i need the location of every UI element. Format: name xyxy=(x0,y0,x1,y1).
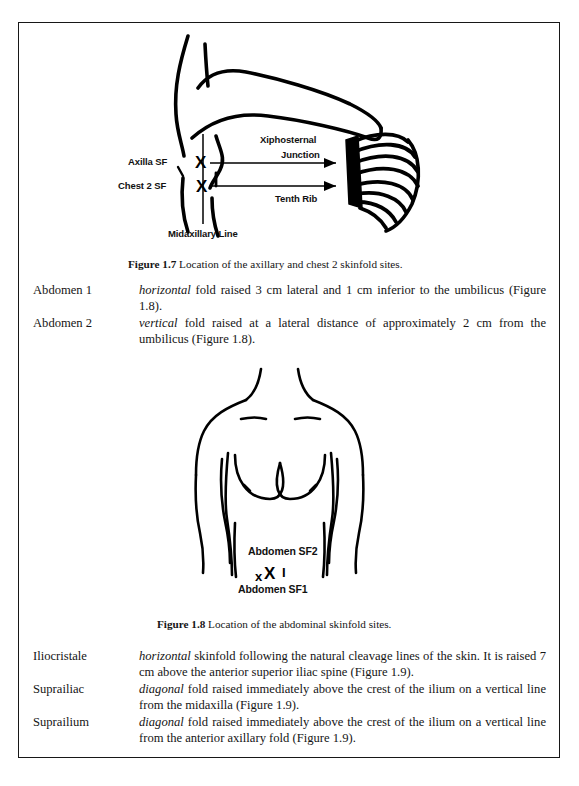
definition-description-suprailiac: diagonal fold raised immediately above t… xyxy=(139,681,546,714)
abdomen-definition-block: Abdomen 1 horizontal fold raised 3 cm la… xyxy=(33,282,546,348)
definition-term-iliocristale: Iliocristale xyxy=(33,648,139,664)
figure-1-8-caption-label: Figure 1.8 xyxy=(157,618,205,630)
figure-1-7-illustration: X X Axilla SF Chest 2 SF Midaxillary Lin… xyxy=(150,28,450,256)
definition-row: Abdomen 1 horizontal fold raised 3 cm la… xyxy=(33,282,546,315)
abdomen-vertical-fold-marker: I xyxy=(282,566,286,579)
midaxillary-line-label: Midaxillary Line xyxy=(168,228,238,239)
definition-body: fold raised at a lateral distance of app… xyxy=(139,316,546,346)
definition-emphasis: vertical xyxy=(139,316,177,330)
figure-1-8-caption-text: Location of the abdominal skinfold sites… xyxy=(208,618,391,630)
figure-1-7-caption-label: Figure 1.7 xyxy=(128,258,176,270)
definition-row: Suprailium diagonal fold raised immediat… xyxy=(33,714,546,747)
definition-emphasis: horizontal xyxy=(139,649,191,663)
chest-2-sf-label: Chest 2 SF xyxy=(118,180,166,191)
xiphosternal-label: Xiphosternal xyxy=(260,134,316,145)
iliac-definition-block: Iliocristale horizontal skinfold followi… xyxy=(33,648,546,746)
flank-line-left xyxy=(234,523,236,577)
abdomen-sf2-marker-large: X xyxy=(264,565,275,582)
junction-label: Junction xyxy=(281,149,320,160)
definition-term-abdomen-2: Abdomen 2 xyxy=(33,315,139,331)
figure-1-8-caption: Figure 1.8 Location of the abdominal ski… xyxy=(157,618,391,630)
back-contour-upper xyxy=(176,36,188,156)
rib-8 xyxy=(360,208,386,228)
definition-row: Suprailiac diagonal fold raised immediat… xyxy=(33,681,546,714)
axilla-sf-label: Axilla SF xyxy=(128,156,167,167)
neck-left xyxy=(246,369,261,400)
figure-1-8-svg xyxy=(162,363,412,611)
definition-emphasis: diagonal xyxy=(139,715,184,729)
abdomen-sf2-label: Abdomen SF2 xyxy=(248,545,318,557)
definition-term-suprailium: Suprailium xyxy=(33,714,139,730)
chest-2-sf-marker: X xyxy=(196,178,207,195)
document-page: X X Axilla SF Chest 2 SF Midaxillary Lin… xyxy=(0,0,579,786)
figure-1-8-illustration: Abdomen SF2 x X I Abdomen SF1 xyxy=(162,363,412,611)
clavicle-left xyxy=(241,418,266,420)
arm-outer-left xyxy=(196,475,204,573)
definition-body: fold raised 3 cm lateral and 1 cm inferi… xyxy=(139,283,546,313)
flank-line-right xyxy=(323,523,325,577)
axilla-sf-marker: X xyxy=(195,154,206,171)
axilla-leader-tick xyxy=(178,167,183,176)
definition-term-suprailiac: Suprailiac xyxy=(33,681,139,697)
clavicle-right xyxy=(295,418,320,420)
figure-1-7-caption: Figure 1.7 Location of the axillary and … xyxy=(128,258,402,270)
neck-right xyxy=(298,369,313,400)
abdomen-sf1-marker-small: x xyxy=(255,570,262,583)
rib-5 xyxy=(356,182,413,200)
abdomen-sf1-label: Abdomen SF1 xyxy=(238,583,308,595)
definition-description-suprailium: diagonal fold raised immediately above t… xyxy=(139,714,546,747)
definition-body: skinfold following the natural cleavage … xyxy=(139,649,546,679)
definition-description-abdomen-2: vertical fold raised at a lateral distan… xyxy=(139,315,546,348)
definition-emphasis: horizontal xyxy=(139,283,191,297)
definition-term-abdomen-1: Abdomen 1 xyxy=(33,282,139,298)
definition-row: Abdomen 2 vertical fold raised at a late… xyxy=(33,315,546,348)
definition-row: Iliocristale horizontal skinfold followi… xyxy=(33,648,546,681)
definition-description-iliocristale: horizontal skinfold following the natura… xyxy=(139,648,546,681)
tenth-rib-arrow xyxy=(210,181,336,191)
arm-outer-right xyxy=(356,475,364,573)
definition-body: fold raised immediately above the crest … xyxy=(139,682,546,712)
rib-cage-group xyxy=(346,134,418,231)
definition-body: fold raised immediately above the crest … xyxy=(139,715,546,745)
definition-description-abdomen-1: horizontal fold raised 3 cm lateral and … xyxy=(139,282,546,315)
figure-1-7-caption-text: Location of the axillary and chest 2 ski… xyxy=(179,258,402,270)
definition-emphasis: diagonal xyxy=(139,682,184,696)
tenth-rib-label: Tenth Rib xyxy=(275,193,317,204)
back-contour-lower xyxy=(182,178,188,232)
